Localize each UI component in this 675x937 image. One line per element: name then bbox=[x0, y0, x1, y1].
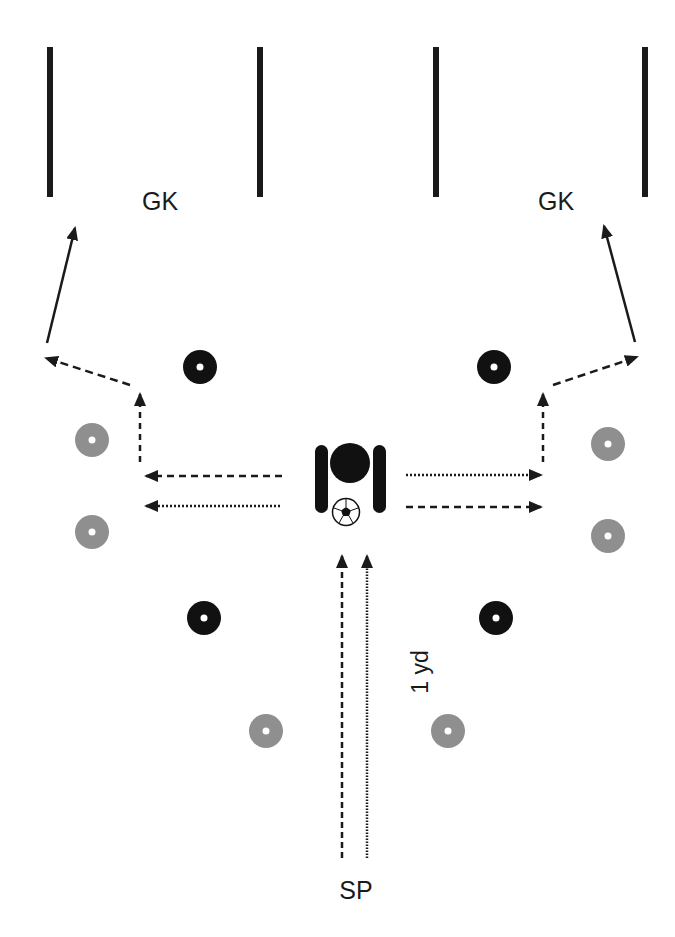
right-goal-post-2 bbox=[642, 47, 648, 197]
player-head bbox=[330, 443, 370, 483]
right-shot-arrow bbox=[604, 226, 635, 342]
left-goal bbox=[47, 47, 263, 197]
distance-label: 1 yd bbox=[407, 650, 433, 693]
black-cone-icon bbox=[477, 350, 511, 384]
gk-label-right: GK bbox=[538, 187, 574, 215]
grey-cone-icon bbox=[591, 427, 625, 461]
left-shot-arrow bbox=[47, 228, 75, 343]
left-goal-post-1 bbox=[47, 47, 53, 197]
drill-diagram: GK GK bbox=[0, 0, 675, 937]
soccer-ball-icon bbox=[333, 499, 360, 526]
gk-label-left: GK bbox=[142, 187, 178, 215]
left-diagonal-dashed-arrow bbox=[46, 358, 130, 385]
start-position-label: SP bbox=[339, 876, 372, 904]
left-goal-post-2 bbox=[257, 47, 263, 197]
black-cone-icon bbox=[479, 601, 513, 635]
grey-cone-icon bbox=[75, 515, 109, 549]
black-cone-icon bbox=[187, 601, 221, 635]
player-right-arm bbox=[373, 445, 386, 513]
right-diagonal-dashed-arrow bbox=[553, 357, 637, 385]
grey-cone-icon bbox=[75, 423, 109, 457]
player-left-arm bbox=[315, 445, 328, 513]
black-cone-icon bbox=[183, 350, 217, 384]
black-cones bbox=[183, 350, 513, 635]
right-goal bbox=[433, 47, 648, 197]
grey-cone-icon bbox=[591, 519, 625, 553]
right-goal-post-1 bbox=[433, 47, 439, 197]
grey-cone-icon bbox=[249, 714, 283, 748]
grey-cone-icon bbox=[431, 714, 465, 748]
